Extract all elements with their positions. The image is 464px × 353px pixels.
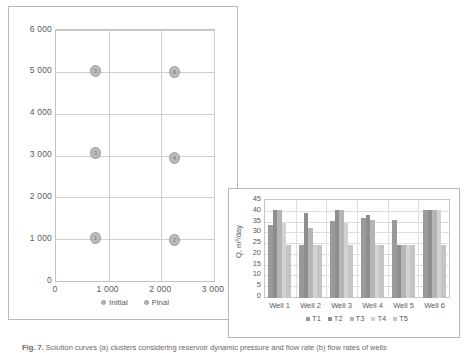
bar-t5[interactable] [410,245,415,298]
bar-y-tick-label: 15 [242,260,261,268]
scatter-x-tick-label: 1 000 [86,284,130,294]
bar-t5[interactable] [441,245,446,298]
legend-label-initial: Initial [109,298,128,307]
scatter-x-tick-label: 2 000 [138,284,182,294]
legend-swatch-icon [306,317,310,321]
bar-legend-label: T4 [377,314,386,323]
bar-group [419,199,450,298]
scatter-y-tick-label: 4 000 [12,108,52,117]
bar-y-tick-label: 35 [242,217,261,225]
scatter-data-point[interactable]: 4 [169,152,180,164]
bar-y-tick-label: 25 [242,238,261,246]
legend-dot-icon [144,300,149,305]
bar-legend-label: T2 [334,314,343,323]
bar-x-tick-label: Well 6 [419,301,450,312]
bar-y-tick-label: 0 [242,292,261,300]
figure-caption-label: Fig. 7. [22,343,44,352]
scatter-y-axis: 01 0002 0003 0004 0005 0006 000 [9,29,52,282]
legend-item-final: Final [144,298,169,307]
scatter-gridline-vertical [214,30,215,281]
bar-legend-item-t3: T3 [350,314,365,323]
scatter-plot-area: 331642 [55,29,215,282]
scatter-data-point[interactable]: 3 [90,147,101,159]
scatter-x-axis: 01 0002 0003 000 [29,284,239,296]
bar-t5[interactable] [317,245,322,298]
bar-group [326,199,357,298]
scatter-y-tick-label: 5 000 [12,66,52,75]
legend-swatch-icon [350,317,354,321]
scatter-data-point[interactable]: 6 [169,66,180,78]
bar-group [357,199,388,298]
legend-label-final: Final [152,298,169,307]
bar-t5[interactable] [286,245,291,298]
bar-series-container [264,199,450,298]
bar-legend: T1T2T3T4T5 [264,313,450,324]
scatter-y-tick-label: 6 000 [12,25,52,34]
bar-legend-label: T3 [356,314,365,323]
scatter-gridline-vertical [109,30,110,281]
legend-swatch-icon [328,317,332,321]
figure-caption: Fig. 7. Solution curves (a) clusters con… [22,343,452,353]
scatter-chart-panel: 01 0002 0003 0004 0005 0006 000 331642 0… [8,6,238,320]
bar-y-tick-label: 20 [242,249,261,257]
bar-chart-panel: Q, m³/day 051015202530354045 Well 1Well … [228,188,460,338]
bar-y-tick-label: 40 [242,206,261,214]
bar-y-tick-label: 45 [242,195,261,203]
scatter-data-point[interactable]: 3 [90,65,101,77]
bar-group [388,199,419,298]
scatter-x-tick-label: 0 [33,284,77,294]
legend-dot-icon [101,300,106,305]
scatter-y-tick-label: 3 000 [12,150,52,159]
scatter-gridline-horizontal [56,30,214,31]
bar-x-axis-ticks: Well 1Well 2Well 3Well 4Well 5Well 6 [264,301,450,312]
bar-t5[interactable] [348,245,353,298]
scatter-gridline-horizontal [56,114,214,115]
bar-y-tick-label: 5 [242,281,261,289]
scatter-gridline-horizontal [56,197,214,198]
legend-swatch-icon [371,317,375,321]
bar-x-tick-label: Well 4 [357,301,388,312]
legend-item-initial: Initial [101,298,128,307]
bar-t5[interactable] [379,245,384,298]
scatter-y-tick-label: 1 000 [12,234,52,243]
bar-legend-item-t4: T4 [371,314,386,323]
scatter-gridline-horizontal [56,239,214,240]
figure-caption-text: Solution curves (a) clusters considering… [46,343,387,352]
scatter-y-tick-label: 2 000 [12,192,52,201]
legend-swatch-icon [393,317,397,321]
scatter-data-point[interactable]: 2 [169,234,180,246]
bar-legend-label: T1 [312,314,321,323]
bar-legend-item-t5: T5 [393,314,408,323]
bar-y-axis-ticks: 051015202530354045 [242,194,261,303]
bar-legend-label: T5 [399,314,408,323]
bar-legend-item-t2: T2 [328,314,343,323]
bar-group [264,199,295,298]
scatter-gridline-horizontal [56,156,214,157]
bar-x-tick-label: Well 2 [295,301,326,312]
scatter-legend: Initial Final [55,296,215,308]
bar-x-tick-label: Well 3 [326,301,357,312]
bar-legend-item-t1: T1 [306,314,321,323]
scatter-data-point[interactable]: 1 [90,232,101,244]
bar-y-tick-label: 30 [242,227,261,235]
scatter-gridline-vertical [161,30,162,281]
bar-y-tick-label: 10 [242,270,261,278]
bar-x-tick-label: Well 5 [388,301,419,312]
bar-group [295,199,326,298]
bar-x-tick-label: Well 1 [264,301,295,312]
scatter-gridline-horizontal [56,72,214,73]
